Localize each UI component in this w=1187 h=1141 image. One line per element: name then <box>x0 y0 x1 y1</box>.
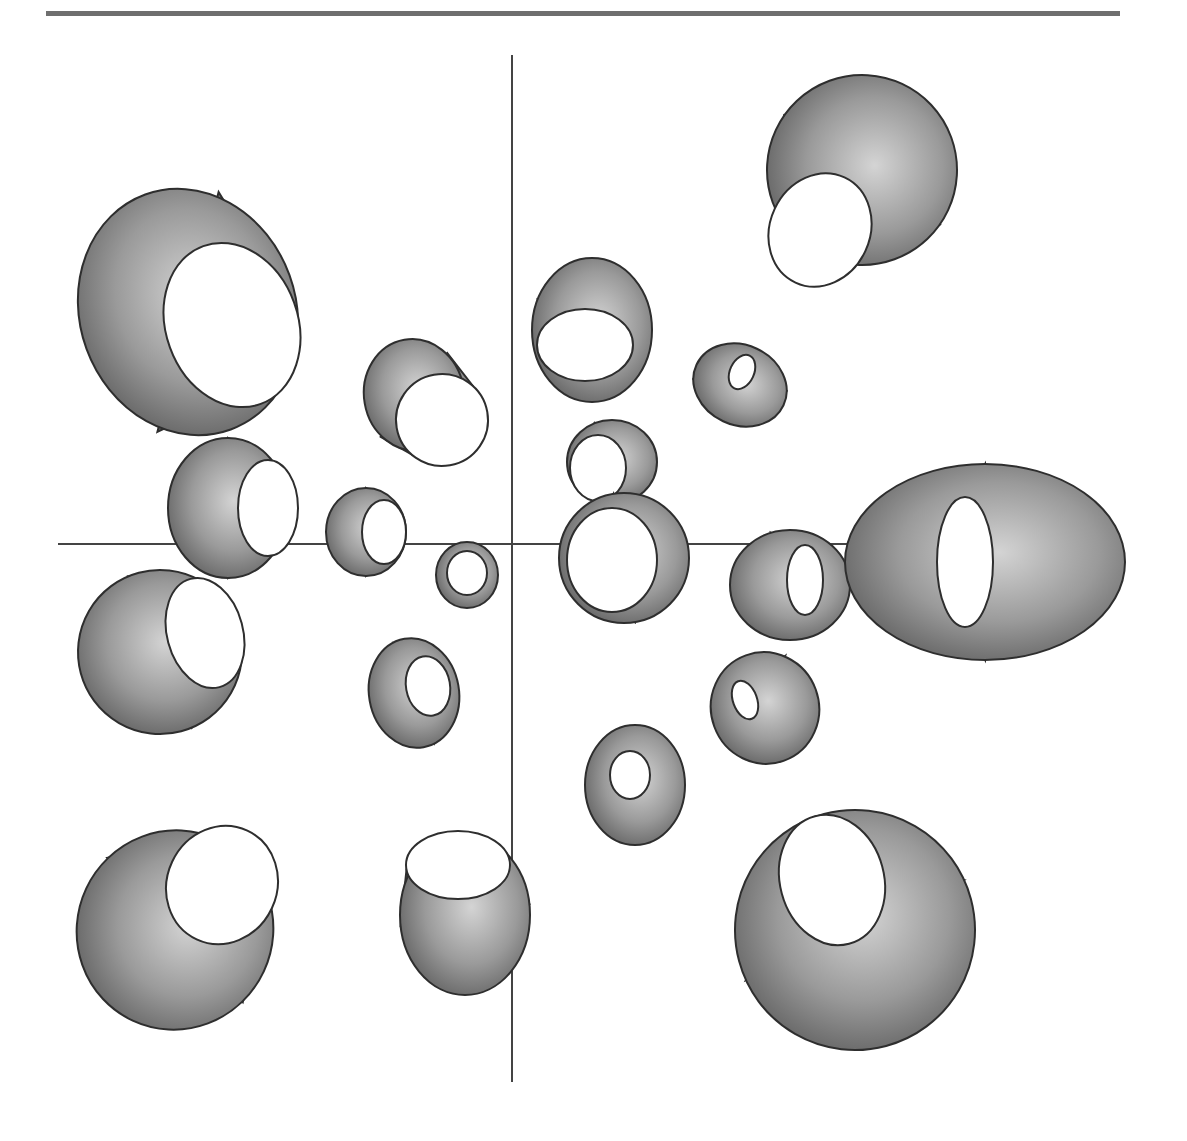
tube-bottom-left-large <box>44 798 306 1062</box>
tube-upper-center <box>532 258 652 402</box>
tube-opening <box>406 831 510 899</box>
tube-right-axis-small <box>730 530 850 640</box>
tube-left-axis-small <box>326 488 406 576</box>
tubes-diagram <box>0 0 1187 1141</box>
tube-upper-left-mid <box>355 331 495 473</box>
tube-top-left-large <box>44 158 332 467</box>
tube-lower-center-right <box>585 725 685 845</box>
tube-opening <box>537 309 633 381</box>
tube-center-ring-lower <box>559 493 689 623</box>
tube-opening <box>787 545 823 615</box>
tube-center-tiny <box>436 542 498 608</box>
tube-bottom-right-large <box>708 783 1002 1077</box>
tube-left-lower <box>60 552 261 753</box>
tube-opening <box>238 460 298 556</box>
tube-opening <box>937 497 993 627</box>
tube-lower-right-small <box>695 637 835 779</box>
tube-top-right-small <box>680 328 801 441</box>
tube-outer-rim <box>695 637 835 779</box>
tube-left-upper-axis <box>168 438 298 578</box>
tube-outer-rim <box>44 798 306 1062</box>
tube-opening <box>567 508 657 612</box>
tube-opening <box>362 500 406 564</box>
tube-right-axis-large <box>845 464 1125 660</box>
tube-center-ring-upper <box>567 420 657 504</box>
tube-top-right-large <box>736 44 988 304</box>
tube-bottom-center <box>400 831 530 995</box>
tube-opening <box>610 751 650 799</box>
tube-opening <box>570 435 626 501</box>
tube-opening <box>447 551 487 595</box>
tube-lower-left-mid <box>360 631 468 755</box>
